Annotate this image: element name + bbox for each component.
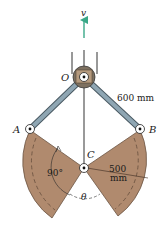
pin-a <box>26 125 35 134</box>
label-o: O <box>61 72 69 83</box>
label-90-degrees: 90° <box>47 168 63 178</box>
mechanism-diagram: v O A B C 600 mm 90° 500 mm θ <box>0 0 167 230</box>
label-b: B <box>148 124 156 135</box>
pin-c <box>80 164 89 173</box>
pin-o <box>80 73 89 82</box>
label-a: A <box>12 124 20 135</box>
label-theta: θ <box>81 192 87 202</box>
label-velocity: v <box>81 8 86 18</box>
label-link-length: 600 mm <box>117 93 155 103</box>
label-c: C <box>87 149 95 160</box>
pin-b <box>136 125 145 134</box>
label-radius-unit: mm <box>110 173 128 183</box>
link-ob <box>84 77 140 129</box>
